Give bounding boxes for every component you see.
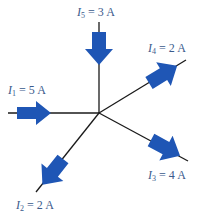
label-i4-equals: = xyxy=(159,41,166,55)
label-i3-unit: A xyxy=(177,168,186,182)
label-i1-unit: A xyxy=(37,83,46,97)
label-i2-equals: = xyxy=(27,198,34,212)
label-i1: I1 = 5 A xyxy=(8,84,46,98)
label-i5-value: 3 xyxy=(98,5,104,19)
arrow-down-right-icon xyxy=(144,128,186,168)
arrow-down-left-icon xyxy=(31,150,73,193)
label-i3: I3 = 4 A xyxy=(148,169,186,183)
label-i3-subscript: 3 xyxy=(152,174,156,183)
label-i4-unit: A xyxy=(177,41,186,55)
label-i2-value: 2 xyxy=(37,198,43,212)
arrow-down-icon xyxy=(85,32,113,65)
arrow-right-icon xyxy=(17,101,51,125)
label-i4-subscript: 4 xyxy=(152,47,156,56)
kirchhoff-node-diagram xyxy=(0,0,199,216)
label-i4: I4 = 2 A xyxy=(148,42,186,56)
label-i1-value: 5 xyxy=(29,83,35,97)
label-i3-value: 4 xyxy=(169,168,175,182)
label-i3-equals: = xyxy=(159,168,166,182)
label-i5: I5 = 3 A xyxy=(77,6,115,20)
arrow-up-right-icon xyxy=(142,54,185,95)
label-i2: I2 = 2 A xyxy=(16,199,54,213)
label-i2-subscript: 2 xyxy=(20,204,24,213)
label-i5-unit: A xyxy=(106,5,115,19)
label-i4-value: 2 xyxy=(169,41,175,55)
label-i5-subscript: 5 xyxy=(81,11,85,20)
label-i1-subscript: 1 xyxy=(12,89,16,98)
label-i2-unit: A xyxy=(45,198,54,212)
label-i5-equals: = xyxy=(88,5,95,19)
label-i1-equals: = xyxy=(19,83,26,97)
